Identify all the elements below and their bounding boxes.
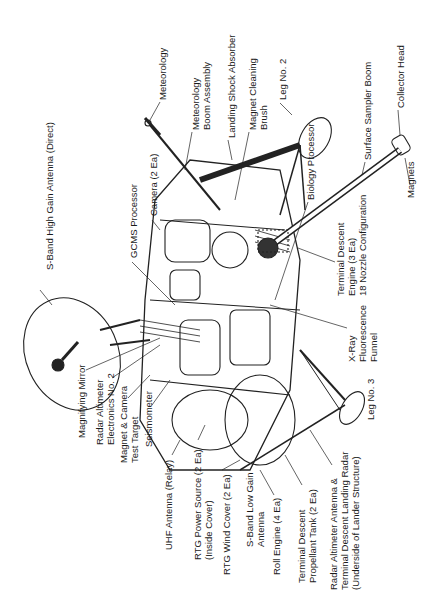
label-seismometer: Seismometer	[143, 391, 154, 447]
label-s-band-lga: S-Band Low Gain Antenna	[244, 473, 266, 547]
label-leg3: Leg No. 3	[365, 379, 376, 420]
label-biology: Biology Processor	[305, 123, 316, 200]
label-rtg-wind: RTG Wind Cover (2 Ea)	[221, 474, 232, 575]
label-meteorology: Meteorology	[157, 48, 168, 100]
label-magnet-camera: Magnet & Camera Test Target	[118, 386, 140, 463]
label-leg2: Leg No. 2	[277, 59, 288, 100]
label-camera: Camera (2 Ea)	[148, 154, 159, 216]
label-magnifying-mirror: Magnifying Mirror	[76, 365, 87, 438]
label-xray: X-Ray Fluorescence Funnel	[346, 305, 379, 362]
label-radar-alt-elec: Radar Altimeter Electronics No. 2	[94, 373, 116, 445]
label-magnets: Magnets	[405, 162, 416, 198]
label-radar-alt-antenna: Radar Altimeter Antenna & Terminal Desce…	[328, 452, 361, 590]
label-roll-engine: Roll Engine (4 Ea)	[271, 498, 282, 575]
label-td-engine: Terminal Descent Engine (3 Ea) 18 Nozzle…	[335, 195, 368, 296]
lander-diagram: S-Band High Gain Antenna (Direct)GCMS Pr…	[0, 0, 436, 614]
label-s-band-hga: S-Band High Gain Antenna (Direct)	[44, 122, 55, 270]
label-sampler-boom: Surface Sampler Boom	[362, 62, 373, 160]
label-uhf: UHF Antenna (Relay)	[163, 460, 174, 550]
label-td-tank: Terminal Descent Propellant Tank (2 Ea)	[296, 489, 318, 583]
label-gcms: GCMS Processor	[128, 184, 139, 258]
label-landing-shock: Landing Shock Absorber	[226, 34, 237, 138]
label-collector-head: Collector Head	[395, 45, 406, 108]
label-magnet-brush: Magnet Cleaning Brush	[247, 58, 269, 130]
label-met-boom: Meteorology Boom Assembly	[190, 62, 212, 130]
label-rtg-power: RTG Power Source (2 Ea) (Inside Cover)	[192, 449, 214, 560]
